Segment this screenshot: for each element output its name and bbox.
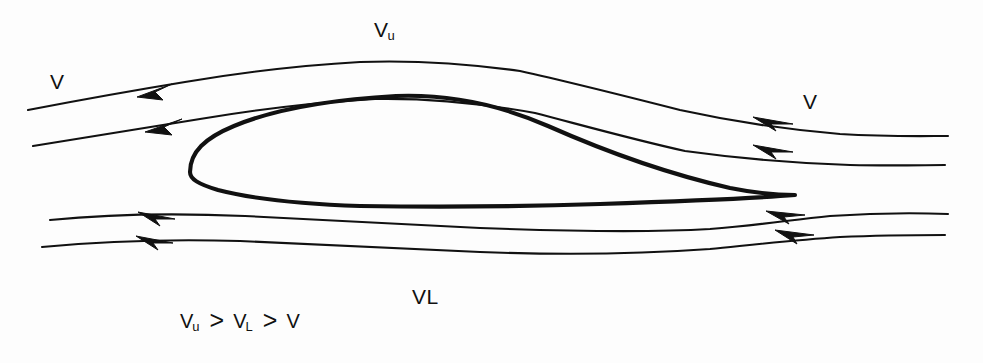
label-velocity-inequality: Vu>VL>V [180, 305, 300, 334]
lower-streamline-2-path [42, 235, 945, 254]
label-freestream-left: V [50, 70, 65, 94]
label-upper-velocity-base: V [374, 18, 389, 41]
inequality-term-vu: Vu [180, 310, 201, 333]
airfoil-outline [190, 96, 795, 207]
inequality-term-vl: VL [233, 310, 254, 333]
arrowhead-icon [136, 236, 173, 250]
streamline-drawing [0, 0, 983, 363]
airfoil-diagram-figure: Vu V V VL Vu>VL>V [0, 0, 983, 363]
label-freestream-right: V [803, 90, 818, 114]
label-upper-velocity-subscript: u [388, 28, 396, 43]
inequality-term-v: V [286, 310, 299, 333]
inequality-term-vl-subscript: L [246, 319, 253, 334]
label-upper-velocity: Vu [374, 18, 396, 42]
lower-streamline-1-path [50, 213, 948, 231]
label-lower-velocity-base: V [412, 285, 427, 308]
lower-streamline-2 [42, 230, 945, 254]
airfoil-outline-path [190, 96, 795, 207]
inequality-term-vl-base: V [233, 310, 246, 332]
upper-right-arrowheads [753, 117, 793, 159]
greater-than-icon-2: > [263, 306, 278, 335]
label-lower-velocity: VL [412, 285, 439, 309]
arrowhead-icon [753, 145, 793, 159]
label-lower-velocity-subscript: L [427, 285, 439, 308]
greater-than-icon-1: > [210, 306, 225, 335]
lower-streamline-1 [50, 211, 948, 231]
inequality-term-vu-subscript: u [192, 319, 199, 334]
